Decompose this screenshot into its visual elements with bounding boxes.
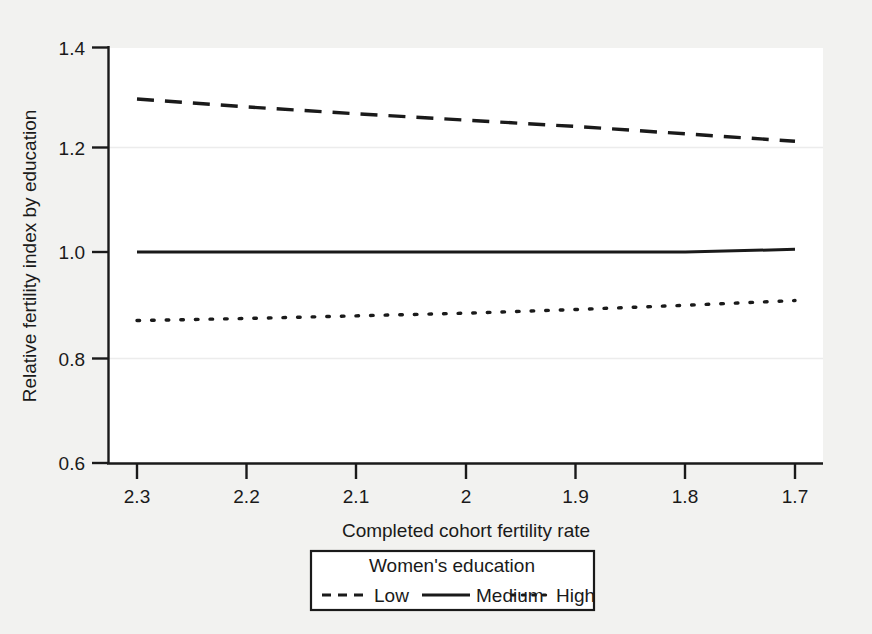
x-tick-label-2-3: 2.3	[124, 486, 150, 507]
y-axis-title: Relative fertility index by education	[19, 110, 40, 403]
legend-label-low[interactable]: Low	[374, 585, 409, 606]
x-tick-label-2-1: 2.1	[343, 486, 369, 507]
x-tick-label-1-9: 1.9	[562, 486, 588, 507]
plot-panel-background	[108, 48, 823, 463]
x-tick-label-1-8: 1.8	[672, 486, 698, 507]
chart-canvas: 1.4 1.2 1.0 0.8 0.6 2.3 2.2 2.1 2 1.9 1.…	[0, 0, 872, 634]
x-tick-label-1-7: 1.7	[782, 486, 808, 507]
y-tick-label-0-8: 0.8	[59, 349, 85, 370]
y-tick-label-1-2: 1.2	[59, 138, 85, 159]
y-tick-label-0-6: 0.6	[59, 453, 85, 474]
legend[interactable]: Women's education Low Medium High	[311, 551, 595, 610]
x-tick-label-2-0: 2	[461, 486, 472, 507]
legend-title: Women's education	[369, 555, 535, 576]
chart-figure: 1.4 1.2 1.0 0.8 0.6 2.3 2.2 2.1 2 1.9 1.…	[0, 0, 872, 634]
x-axis-title: Completed cohort fertility rate	[342, 520, 590, 541]
x-tick-label-2-2: 2.2	[233, 486, 259, 507]
y-tick-label-1-0: 1.0	[59, 242, 85, 263]
legend-label-high[interactable]: High	[556, 585, 595, 606]
y-tick-label-1-4: 1.4	[59, 38, 86, 59]
